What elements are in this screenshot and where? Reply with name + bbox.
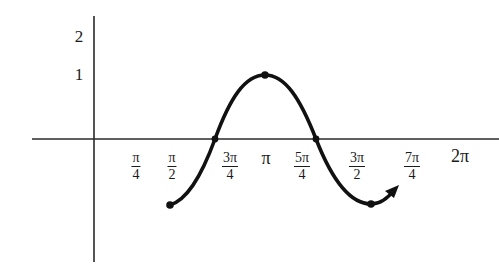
- curve: [170, 75, 394, 205]
- denominator: 2: [168, 167, 175, 182]
- numerator: π: [131, 151, 140, 167]
- denominator: 4: [132, 167, 139, 182]
- point-max: [261, 71, 269, 79]
- numerator: π: [167, 151, 176, 167]
- y-tick-1: 1: [75, 65, 84, 85]
- x-tick-5pi-4: 5π 4: [294, 151, 310, 182]
- numerator: 3π: [222, 151, 238, 167]
- x-tick-7pi-4: 7π 4: [404, 151, 420, 182]
- x-tick-pi-4: π 4: [131, 151, 140, 182]
- point-zero-2: [313, 136, 320, 143]
- numerator: 3π: [349, 151, 365, 167]
- numerator: 7π: [404, 151, 420, 167]
- denominator: 4: [298, 167, 305, 182]
- x-tick-pi: π: [261, 148, 270, 169]
- point-min: [367, 200, 375, 208]
- point-zero-1: [212, 136, 219, 143]
- point-start: [166, 201, 174, 209]
- x-tick-3pi-4: 3π 4: [222, 151, 238, 182]
- denominator: 2: [353, 167, 360, 182]
- y-tick-2: 2: [75, 27, 84, 47]
- x-tick-2pi: 2π: [451, 146, 469, 167]
- x-tick-pi-2: π 2: [167, 151, 176, 182]
- numerator: 5π: [294, 151, 310, 167]
- x-tick-3pi-2: 3π 2: [349, 151, 365, 182]
- denominator: 4: [408, 167, 415, 182]
- denominator: 4: [226, 167, 233, 182]
